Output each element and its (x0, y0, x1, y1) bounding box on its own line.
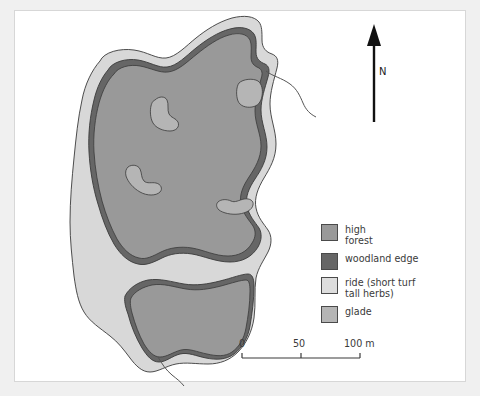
scale-bar: 0 50 100 m (236, 338, 376, 368)
glade-patch (217, 199, 254, 214)
legend-swatch-ride (321, 277, 338, 294)
legend-label-high-forest: high forest (345, 224, 373, 246)
map-legend: high forest woodland edge ride (short tu… (321, 224, 451, 330)
north-arrow-label: N (379, 66, 386, 77)
figure-root: N high forest woodland edge ride (short … (0, 0, 480, 396)
legend-item-glade: glade (321, 306, 451, 323)
legend-item-woodland-edge: woodland edge (321, 253, 451, 270)
glade-patch (237, 79, 263, 107)
legend-label-woodland-edge: woodland edge (345, 253, 418, 264)
scale-tick-0: 0 (239, 338, 245, 349)
legend-item-ride: ride (short turf tall herbs) (321, 277, 451, 299)
legend-swatch-high-forest (321, 224, 338, 241)
legend-swatch-woodland-edge (321, 253, 338, 270)
legend-swatch-glade (321, 306, 338, 323)
legend-label-ride: ride (short turf tall herbs) (345, 277, 415, 299)
woodland-map (0, 0, 480, 396)
scale-tick-50: 50 (293, 338, 305, 349)
legend-item-high-forest: high forest (321, 224, 451, 246)
high-forest-south (130, 280, 250, 357)
scale-bar-labels: 0 50 100 m (236, 338, 376, 351)
scale-tick-100: 100 m (344, 338, 375, 349)
legend-label-glade: glade (345, 306, 372, 317)
